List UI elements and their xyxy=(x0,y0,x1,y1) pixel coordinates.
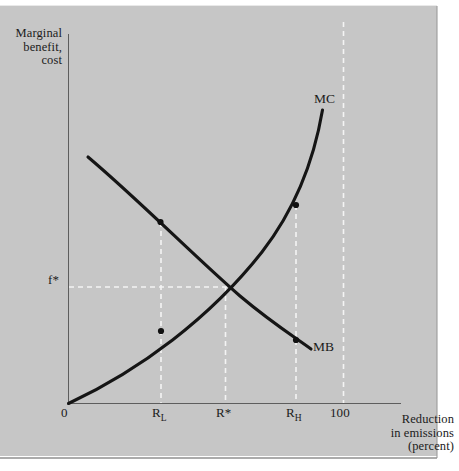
y-axis-title: Marginal benefit, cost xyxy=(6,27,62,68)
tick-label-R-sub-H-subscript: H xyxy=(295,413,302,423)
tick-label-R-star: R* xyxy=(216,406,231,420)
marker-mc-at-RH xyxy=(293,202,299,208)
tick-label-f-star: f* xyxy=(48,273,59,287)
marginal-benefit-curve xyxy=(88,157,311,349)
curve-label-marginal-cost: MC xyxy=(314,92,335,107)
tick-label-R-sub-L: RL xyxy=(152,406,167,423)
marker-mc-at-RL xyxy=(158,328,164,334)
tick-label-R-sub-L-base: R xyxy=(152,405,161,420)
tick-label-origin: 0 xyxy=(61,406,68,420)
tick-label-one-hundred: 100 xyxy=(330,406,350,420)
plot-area xyxy=(0,0,459,471)
marker-mb-at-RH xyxy=(293,337,299,343)
marker-mb-at-RL xyxy=(157,219,163,225)
curve-point-markers xyxy=(157,202,299,343)
tick-label-R-sub-L-subscript: L xyxy=(161,413,167,423)
tick-label-R-sub-H: RH xyxy=(286,406,302,423)
axes xyxy=(68,34,401,404)
figure-root: Marginal benefit, cost Reduction in emis… xyxy=(0,0,459,471)
curve-label-marginal-benefit: MB xyxy=(313,340,334,355)
x-axis-title: Reduction in emissions (percent) xyxy=(376,413,454,454)
guide-lines xyxy=(69,22,344,403)
tick-label-R-sub-H-base: R xyxy=(286,405,295,420)
